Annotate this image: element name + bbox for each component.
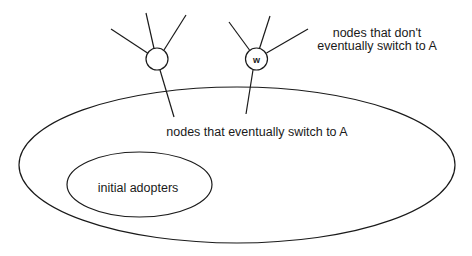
outer-set-label: nodes that eventually switch to A	[166, 125, 347, 139]
edge	[160, 70, 174, 117]
outside-set-label-line2: eventually switch to A	[317, 39, 437, 53]
edge	[111, 29, 148, 53]
edge	[164, 15, 186, 50]
edge	[229, 22, 250, 50]
inner-set-label: initial adopters	[98, 181, 179, 195]
edge	[260, 16, 271, 49]
w-node-edges	[229, 16, 308, 114]
edge	[246, 70, 253, 114]
left-node	[146, 48, 168, 70]
edge	[267, 29, 309, 53]
edge	[146, 13, 154, 49]
w-node-label: w	[252, 55, 261, 65]
outer-set-ellipse	[19, 87, 455, 243]
outside-set-label-line1: nodes that don't	[333, 26, 422, 40]
